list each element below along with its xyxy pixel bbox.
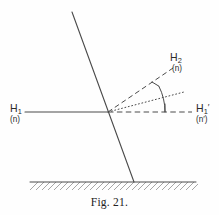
label-h1-text: H1 [10,103,22,115]
figure-container: H1 (n) H2 (n) H1′ (n′) Fig. 21. [0,0,219,215]
ray-diagram [0,0,219,215]
label-h1-medium: (n) [10,116,22,124]
ground-hatching-group [30,182,200,190]
angle-arc-tick-refracted [152,82,159,86]
label-refracted-ray-h2: H2 (n) [170,52,182,73]
label-h2-medium: (n) [172,65,182,73]
refracted-ray-h2-line [108,66,176,112]
angle-arc [159,86,165,112]
label-incident-ray-h1: H1 (n) [10,103,22,124]
figure-caption: Fig. 21. [0,196,219,208]
label-h1-prime-medium: (n′) [196,116,210,124]
label-transmitted-ray-h1-prime: H1′ (n′) [196,103,210,124]
label-h1-prime-text: H1′ [196,103,210,115]
label-h2-text: H2 [170,52,182,64]
interface-line [72,12,134,182]
bisector-ray-dotted-line [108,92,184,112]
